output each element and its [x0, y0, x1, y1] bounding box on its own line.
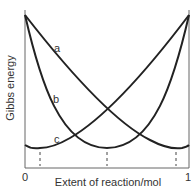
x-axis-label: Extent of reaction/mol	[55, 176, 161, 188]
x-tick-1: 1	[185, 171, 191, 183]
curve-c	[25, 15, 189, 148]
label-a: a	[54, 42, 61, 54]
y-axis-label: Gibbs energy	[4, 55, 16, 121]
gibbs-energy-chart: a b c 0 1 Extent of reaction/mol Gibbs e…	[0, 0, 191, 188]
x-tick-0: 0	[22, 171, 28, 183]
curve-b	[25, 15, 189, 148]
curve-a	[25, 15, 189, 148]
label-b: b	[53, 93, 59, 105]
label-c: c	[54, 133, 60, 145]
